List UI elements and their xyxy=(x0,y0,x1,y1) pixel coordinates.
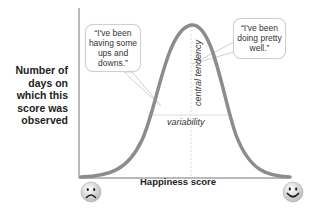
y-axis-label: Number of days on which this score was o… xyxy=(10,64,68,127)
sad-face-icon xyxy=(80,181,102,203)
speech-bubble-left: “I've been having some ups and downs.” xyxy=(85,24,141,72)
central-tendency-label: central tendency xyxy=(193,37,203,109)
figure-caption xyxy=(16,213,56,224)
happy-face-icon xyxy=(282,181,304,203)
variability-label: variability xyxy=(167,117,205,127)
x-axis-label: Happiness score xyxy=(140,176,260,187)
speech-bubble-right: “I've been doing pretty well.” xyxy=(233,18,286,59)
